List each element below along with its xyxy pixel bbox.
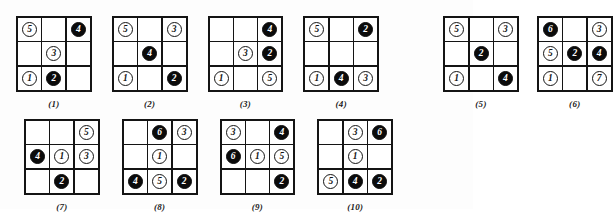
token: 3 <box>498 22 513 37</box>
grid-cell[interactable]: 5 <box>114 18 137 41</box>
puzzle-grid-3: 4 3 2 1 5 <box>208 16 284 92</box>
puzzle-grid-7: 5 4 1 3 2 <box>24 119 100 195</box>
grid-cell[interactable]: 3 <box>588 18 611 41</box>
grid-cell[interactable]: 1 <box>344 145 367 168</box>
grid-cell[interactable] <box>173 145 196 168</box>
grid-cell[interactable]: 3 <box>494 18 517 41</box>
grid-cell[interactable] <box>114 42 137 65</box>
grid-cell[interactable] <box>354 42 377 65</box>
grid-cell[interactable]: 2 <box>163 67 186 90</box>
puzzle-grid-4: 5 2 1 4 3 <box>303 16 379 92</box>
grid-cell[interactable] <box>445 42 468 65</box>
figure-row-top: 5 4 3 1 2 (1) 5 3 4 1 2 <box>16 16 613 109</box>
grid-cell[interactable]: 5 <box>539 42 562 65</box>
grid-cell[interactable]: 5 <box>148 170 171 193</box>
grid-cell[interactable]: 6 <box>539 18 562 41</box>
token: 4 <box>274 125 289 140</box>
grid-cell[interactable]: 3 <box>354 67 377 90</box>
grid-cell[interactable]: 4 <box>67 18 90 41</box>
grid-cell[interactable]: 4 <box>26 145 49 168</box>
grid-cell[interactable]: 4 <box>330 67 353 90</box>
grid-cell[interactable]: 2 <box>354 18 377 41</box>
grid-cell[interactable] <box>138 67 161 90</box>
grid-cell[interactable]: 3 <box>344 121 367 144</box>
grid-cell[interactable] <box>330 42 353 65</box>
grid-cell[interactable] <box>210 42 233 65</box>
grid-cell[interactable]: 2 <box>173 170 196 193</box>
grid-cell[interactable] <box>222 170 245 193</box>
grid-cell[interactable] <box>305 42 328 65</box>
grid-cell[interactable] <box>138 18 161 41</box>
grid-cell[interactable]: 2 <box>368 170 391 193</box>
grid-cell[interactable] <box>163 42 186 65</box>
grid-cell[interactable]: 5 <box>18 18 41 41</box>
grid-cell[interactable] <box>246 121 269 144</box>
figure-caption: (9) <box>252 202 263 212</box>
grid-cell[interactable]: 4 <box>258 18 281 41</box>
grid-cell[interactable] <box>26 121 49 144</box>
grid-cell[interactable]: 2 <box>258 42 281 65</box>
grid-cell[interactable]: 3 <box>42 42 65 65</box>
grid-cell[interactable]: 1 <box>50 145 73 168</box>
grid-cell[interactable]: 5 <box>258 67 281 90</box>
grid-cell[interactable]: 5 <box>445 18 468 41</box>
figure-caption: (1) <box>48 99 59 109</box>
grid-cell[interactable] <box>67 67 90 90</box>
grid-cell[interactable] <box>246 170 269 193</box>
grid-cell[interactable]: 7 <box>588 67 611 90</box>
grid-cell[interactable] <box>563 18 586 41</box>
grid-cell[interactable]: 5 <box>270 145 293 168</box>
grid-cell[interactable]: 6 <box>148 121 171 144</box>
grid-cell[interactable] <box>368 145 391 168</box>
grid-cell[interactable]: 1 <box>305 67 328 90</box>
figure-1: 5 4 3 1 2 (1) <box>16 16 92 109</box>
grid-cell[interactable] <box>234 18 257 41</box>
grid-cell[interactable] <box>50 121 73 144</box>
grid-cell[interactable] <box>470 67 493 90</box>
grid-cell[interactable] <box>67 42 90 65</box>
grid-cell[interactable]: 2 <box>470 42 493 65</box>
grid-cell[interactable]: 1 <box>18 67 41 90</box>
grid-cell[interactable]: 4 <box>588 42 611 65</box>
grid-cell[interactable]: 2 <box>50 170 73 193</box>
grid-cell[interactable]: 4 <box>270 121 293 144</box>
grid-cell[interactable]: 1 <box>210 67 233 90</box>
grid-cell[interactable] <box>18 42 41 65</box>
grid-cell[interactable]: 5 <box>305 18 328 41</box>
grid-cell[interactable]: 3 <box>163 18 186 41</box>
grid-cell[interactable] <box>319 145 342 168</box>
grid-cell[interactable] <box>470 18 493 41</box>
grid-cell[interactable]: 1 <box>539 67 562 90</box>
grid-cell[interactable]: 6 <box>368 121 391 144</box>
grid-cell[interactable] <box>330 18 353 41</box>
grid-cell[interactable]: 4 <box>124 170 147 193</box>
grid-cell[interactable] <box>319 121 342 144</box>
grid-cell[interactable]: 2 <box>270 170 293 193</box>
grid-cell[interactable]: 3 <box>222 121 245 144</box>
grid-cell[interactable]: 4 <box>344 170 367 193</box>
grid-cell[interactable]: 4 <box>138 42 161 65</box>
grid-cell[interactable] <box>75 170 98 193</box>
token: 3 <box>238 46 253 61</box>
grid-cell[interactable]: 2 <box>42 67 65 90</box>
grid-cell[interactable] <box>42 18 65 41</box>
grid-cell[interactable]: 6 <box>222 145 245 168</box>
grid-cell[interactable]: 1 <box>148 145 171 168</box>
grid-cell[interactable]: 1 <box>445 67 468 90</box>
grid-cell[interactable] <box>210 18 233 41</box>
grid-cell[interactable] <box>234 67 257 90</box>
grid-cell[interactable]: 1 <box>114 67 137 90</box>
grid-cell[interactable]: 3 <box>173 121 196 144</box>
grid-cell[interactable]: 5 <box>319 170 342 193</box>
grid-cell[interactable]: 3 <box>234 42 257 65</box>
grid-cell[interactable] <box>494 42 517 65</box>
grid-cell[interactable]: 4 <box>494 67 517 90</box>
grid-cell[interactable] <box>26 170 49 193</box>
grid-cell[interactable]: 5 <box>75 121 98 144</box>
grid-cell[interactable] <box>124 121 147 144</box>
grid-cell[interactable]: 2 <box>563 42 586 65</box>
grid-cell[interactable] <box>563 67 586 90</box>
grid-cell[interactable]: 1 <box>246 145 269 168</box>
grid-cell[interactable] <box>124 145 147 168</box>
grid-cell[interactable]: 3 <box>75 145 98 168</box>
